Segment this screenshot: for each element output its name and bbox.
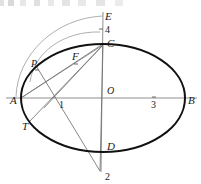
label-F: F xyxy=(71,50,79,62)
label-E: E xyxy=(104,10,112,22)
label-O: O xyxy=(107,85,114,96)
label-point-4: 4 xyxy=(105,24,110,35)
label-point-1: 1 xyxy=(59,99,64,110)
label-A: A xyxy=(9,94,17,106)
ellipse-construction-figure: A B C D E F O P T 1 2 3 4 xyxy=(0,0,201,184)
segment-p-point2 xyxy=(35,64,100,171)
label-T: T xyxy=(22,120,29,132)
segment-a-f xyxy=(21,45,103,98)
tick-marks-group xyxy=(35,29,156,97)
arc-a-e xyxy=(16,16,103,97)
label-point-3: 3 xyxy=(151,99,156,110)
label-D: D xyxy=(106,140,115,152)
arc-p-c xyxy=(30,32,100,82)
label-B: B xyxy=(188,94,195,106)
label-P: P xyxy=(30,58,37,69)
label-point-2: 2 xyxy=(105,171,110,182)
label-C: C xyxy=(107,37,115,49)
